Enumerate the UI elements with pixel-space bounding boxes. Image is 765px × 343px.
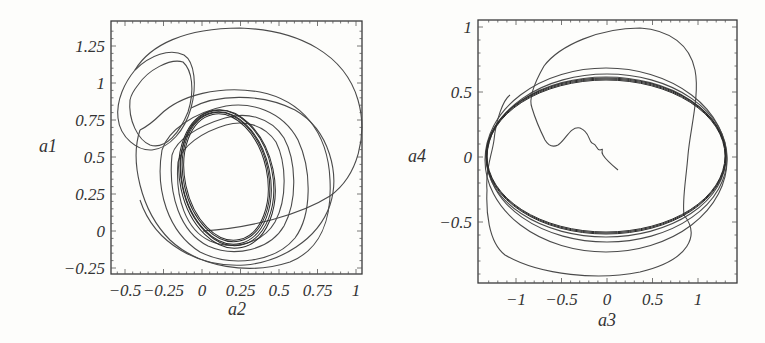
left-plot: −0.5−0.2500.250.50.7511.2510.750.50.250−… xyxy=(39,21,362,319)
x-tick-label: −1 xyxy=(506,290,526,309)
x-tick-label: 0.25 xyxy=(226,281,256,300)
right-plot-ticks xyxy=(478,20,737,283)
y-tick-label: 0.5 xyxy=(451,83,472,102)
limit-cycle xyxy=(487,80,725,232)
upper-left-loop-outer xyxy=(118,52,195,150)
x-tick-label: 1 xyxy=(352,281,361,300)
y-tick-label: 0 xyxy=(97,222,106,241)
left-plot-curves xyxy=(118,28,362,268)
x-tick-label: −0.5 xyxy=(109,281,142,300)
limit-cycle xyxy=(173,106,280,248)
figure: −0.5−0.2500.250.50.7511.2510.750.50.250−… xyxy=(0,0,765,343)
approach-loop-1 xyxy=(485,68,727,252)
x-tick-label: −0.5 xyxy=(545,290,578,309)
right-plot-tick-labels: −1−0.500.5110.50−0.5 xyxy=(439,18,702,309)
limit-cycle-strand xyxy=(169,103,283,252)
y-tick-label: −0.5 xyxy=(439,213,472,232)
x-tick-label: 0 xyxy=(198,281,207,300)
y-tick-label: 0.5 xyxy=(84,148,105,167)
right-plot-frame xyxy=(478,20,737,283)
trajectory-start-segment xyxy=(135,28,362,231)
y-tick-label: 1.25 xyxy=(75,37,105,56)
left-x-axis-label: a2 xyxy=(228,299,246,319)
x-tick-label: −0.25 xyxy=(143,281,184,300)
right-plot: −1−0.500.5110.50−0.5 a4 a3 xyxy=(408,18,737,330)
x-tick-label: 0.5 xyxy=(642,290,663,309)
x-tick-label: 0.5 xyxy=(268,281,289,300)
y-tick-label: 1 xyxy=(464,18,473,37)
right-x-axis-label: a3 xyxy=(598,310,616,330)
y-tick-label: −0.25 xyxy=(64,259,105,278)
limit-cycle-bundle xyxy=(486,78,726,234)
right-y-axis-label: a4 xyxy=(408,146,426,166)
y-tick-label: 0.75 xyxy=(75,111,105,130)
y-tick-label: 0.25 xyxy=(75,185,105,204)
y-tick-label: 1 xyxy=(97,74,106,93)
x-tick-label: 0 xyxy=(603,290,612,309)
x-tick-label: 1 xyxy=(694,290,703,309)
y-tick-label: 0 xyxy=(464,148,473,167)
left-plot-tick-labels: −0.5−0.2500.250.50.7511.2510.750.50.250−… xyxy=(64,37,360,300)
x-tick-label: 0.75 xyxy=(303,281,333,300)
trajectory-start-segment xyxy=(531,28,696,215)
right-plot-curves xyxy=(485,28,727,276)
left-y-axis-label: a1 xyxy=(39,136,57,156)
